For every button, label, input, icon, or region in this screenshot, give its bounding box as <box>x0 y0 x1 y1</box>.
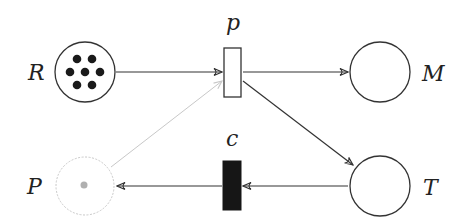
token <box>88 81 97 90</box>
transition-p <box>224 48 241 97</box>
place-m-label: M <box>421 61 445 86</box>
place-r <box>55 42 115 102</box>
token <box>73 55 82 64</box>
token <box>73 81 82 90</box>
token <box>81 182 88 189</box>
transition-c-label: c <box>226 126 238 151</box>
transition-p-label: p <box>226 10 240 35</box>
place-m <box>350 42 410 102</box>
petri-net-diagram: R p M T c P <box>0 0 469 223</box>
token <box>96 68 105 77</box>
place-t <box>350 156 410 216</box>
token <box>88 55 97 64</box>
arc-p-to-t <box>243 81 353 165</box>
token <box>66 68 75 77</box>
arc-p-from-p-place <box>111 81 222 167</box>
place-p-label: P <box>26 174 43 199</box>
place-t-label: T <box>423 175 440 200</box>
place-r-label: R <box>27 60 45 85</box>
transition-c <box>223 161 241 210</box>
token <box>81 68 90 77</box>
place-p <box>56 157 114 215</box>
